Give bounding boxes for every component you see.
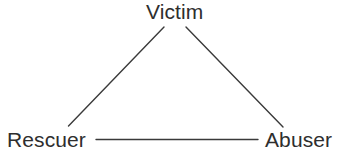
edge-victim-rescuer: [69, 27, 165, 126]
node-label-abuser: Abuser: [265, 129, 332, 150]
node-label-victim: Victim: [146, 1, 203, 22]
edge-victim-abuser: [186, 27, 283, 127]
node-label-rescuer: Rescuer: [7, 129, 86, 150]
drama-triangle-diagram: Victim Rescuer Abuser: [0, 0, 349, 157]
